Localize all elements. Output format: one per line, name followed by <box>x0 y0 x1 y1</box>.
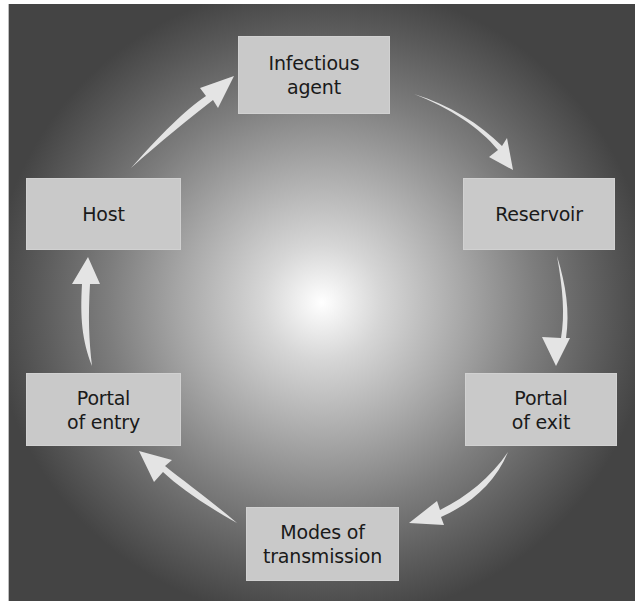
node-portal-of-entry: Portal of entry <box>26 373 181 446</box>
node-modes-of-transmission: Modes of transmission <box>246 507 399 581</box>
node-portal-of-exit: Portal of exit <box>465 373 617 446</box>
node-label: Host <box>82 202 124 226</box>
node-reservoir: Reservoir <box>463 178 615 250</box>
node-label: Reservoir <box>495 202 583 226</box>
node-label: Portal of exit <box>512 386 570 434</box>
node-infectious-agent: Infectious agent <box>238 36 390 114</box>
node-host: Host <box>26 178 181 250</box>
node-label: Portal of entry <box>67 386 140 434</box>
node-label: Infectious agent <box>269 51 360 99</box>
node-label: Modes of transmission <box>263 520 382 568</box>
